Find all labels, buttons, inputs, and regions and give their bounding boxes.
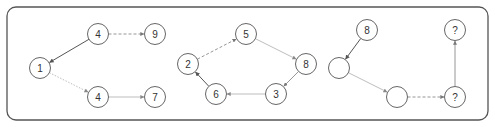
node-p3-blank2 xyxy=(387,87,408,108)
node-p2-n8: 8 xyxy=(296,54,317,75)
node-circle xyxy=(329,58,350,79)
node-p1-n1: 1 xyxy=(30,58,51,79)
node-label: 4 xyxy=(95,92,101,103)
node-label: 5 xyxy=(243,29,249,40)
node-p1-n4a: 4 xyxy=(88,24,109,45)
node-p2-n6: 6 xyxy=(206,84,227,105)
node-p2-n5: 5 xyxy=(236,24,257,45)
node-p3-q2: ? xyxy=(445,20,466,41)
node-label: ? xyxy=(452,92,458,103)
node-p1-n9: 9 xyxy=(145,24,166,45)
node-label: 8 xyxy=(303,59,309,70)
node-p1-n7: 7 xyxy=(145,87,166,108)
node-label: 7 xyxy=(152,92,158,103)
node-label: ? xyxy=(452,25,458,36)
node-p1-n4b: 4 xyxy=(88,87,109,108)
node-circle xyxy=(387,87,408,108)
node-p3-q1: ? xyxy=(445,87,466,108)
node-label: 8 xyxy=(364,25,370,36)
node-label: 3 xyxy=(273,89,279,100)
arrow-edge-p1-n4a-to-p1-n1 xyxy=(49,39,88,62)
node-label: 1 xyxy=(37,63,43,74)
arrow-edge-p2-n6-to-p2-n2 xyxy=(196,72,209,86)
node-p2-n2: 2 xyxy=(178,54,199,75)
arrow-edge-p1-n1-to-p1-n4b xyxy=(49,73,88,92)
node-p3-blank1 xyxy=(329,58,350,79)
arrow-edge-p3-blank1-to-p3-blank2 xyxy=(348,73,387,92)
node-p3-n8: 8 xyxy=(357,20,378,41)
arrow-edge-p2-n8-to-p2-n3 xyxy=(284,71,299,86)
node-label: 9 xyxy=(152,29,158,40)
node-p2-n3: 3 xyxy=(266,84,287,105)
arrow-edge-p3-n8-to-p3-blank1 xyxy=(346,38,361,59)
arrow-edge-p2-n5-to-p2-n8 xyxy=(255,39,296,59)
node-label: 6 xyxy=(213,89,219,100)
arrow-edge-p2-n2-to-p2-n5 xyxy=(197,39,236,59)
puzzle-diagram: 14947528638?? xyxy=(0,0,495,127)
node-label: 2 xyxy=(185,59,191,70)
node-label: 4 xyxy=(95,29,101,40)
